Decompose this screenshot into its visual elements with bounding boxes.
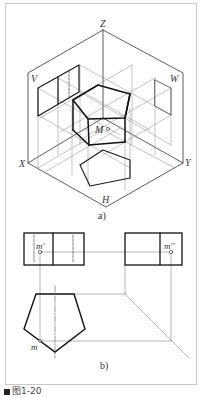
axis-label-y: Y xyxy=(185,157,192,168)
subfigure-label-a: a) xyxy=(98,210,106,222)
caption-text: 图1-20 xyxy=(12,386,41,396)
subfigure-label-b: b) xyxy=(100,360,108,372)
plane-label-w: W xyxy=(170,73,180,84)
label-m-double-prime: m'' xyxy=(164,241,175,251)
front-view xyxy=(24,233,84,265)
axis-label-x: X xyxy=(18,158,26,169)
point-m-marker xyxy=(106,127,109,130)
orthographic-views xyxy=(24,233,189,358)
isometric-view xyxy=(28,30,183,207)
label-m-top: m xyxy=(31,342,38,352)
h-plane-projection xyxy=(80,150,130,186)
caption-bullet-icon xyxy=(4,389,10,395)
plane-label-v: V xyxy=(31,73,39,84)
axis-label-h: H xyxy=(101,194,110,205)
point-m-marker-top xyxy=(39,340,42,343)
w-plane-projection xyxy=(155,80,171,115)
label-m-prime: m' xyxy=(36,241,45,251)
projection-connector-lines xyxy=(40,252,189,358)
axis-label-z: Z xyxy=(100,18,106,29)
pentagonal-prism xyxy=(73,85,130,145)
diagram-canvas: Z X Y H V W M a) xyxy=(0,0,202,397)
point-label-m: M xyxy=(94,124,104,135)
figure-caption: 图1-20 xyxy=(4,386,41,397)
